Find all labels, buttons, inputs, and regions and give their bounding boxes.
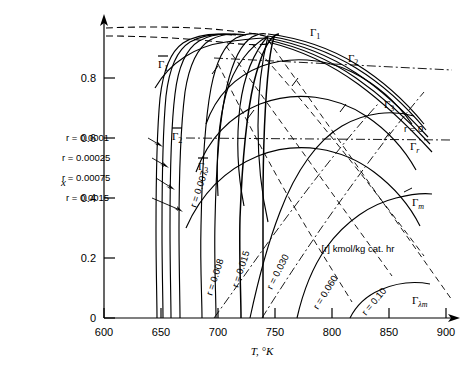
mid-arc-3: [186, 148, 420, 228]
locus-dashed-3: [268, 40, 452, 300]
rate-label-0.0001: r = 0.0001: [66, 132, 109, 143]
conversion-temperature-plot: 0 0.2 0.4 0.6 0.8 600 650 700 750 800 85…: [0, 0, 468, 366]
x-tick-850: 850: [380, 326, 398, 338]
gamma-r-label: Γr: [410, 140, 420, 155]
rate-label-0.030: r = 0.030: [264, 252, 291, 291]
gamma-m-label: Γm: [412, 196, 424, 211]
rate-label-0.015: r = 0.015: [229, 249, 251, 288]
gamma-label-group: Γ1 Γ2 Γ3 Γr Γm Γλm: [310, 26, 428, 309]
x-tick-600: 600: [95, 326, 113, 338]
y-tick-0: 0: [90, 312, 96, 324]
rate-label-leaders: [148, 138, 183, 212]
gamma-3-label: Γ3: [384, 98, 394, 113]
y-tick-0.8: 0.8: [81, 72, 96, 84]
units-note: [r] kmol/kg cat. hr: [322, 243, 395, 254]
rate-label-0.00025: r = 0.00025: [62, 152, 110, 163]
x-tick-750: 750: [266, 326, 284, 338]
rate-label-0.008: r = 0.008: [203, 257, 225, 296]
x-tick-900: 900: [437, 326, 455, 338]
high-rate-curve-family: [250, 113, 432, 318]
x-axis-ticks: [104, 308, 446, 318]
gamma-locus-dashed-lines: [218, 40, 452, 302]
rate-label-0: r = 0: [404, 123, 423, 134]
gamma-lambda-m-label: Γλm: [412, 294, 428, 309]
y-tick-0.2: 0.2: [81, 252, 96, 264]
x-tick-800: 800: [323, 326, 341, 338]
rate-label-0.10: r = 0.10: [359, 285, 388, 317]
x-tick-700: 700: [209, 326, 227, 338]
gamma-bar-2-label: Γ2: [172, 130, 182, 145]
chart-figure: 0 0.2 0.4 0.6 0.8 600 650 700 750 800 85…: [0, 0, 468, 366]
gamma-1-label: Γ1: [310, 26, 320, 41]
rate-label-0.00075: r = 0.00075: [62, 172, 110, 183]
rate-label-0.007: r = 0.007: [187, 169, 209, 208]
rate-label-0.060: r = 0.060: [310, 273, 339, 311]
x-axis-label: T, °K: [251, 345, 274, 357]
rate-label-0.0015: r = 0.0015: [66, 192, 109, 203]
x-tick-650: 650: [152, 326, 170, 338]
gamma-locus-dashdot-lines: [186, 58, 452, 318]
equilibrium-curves: [106, 27, 268, 45]
gamma1-curve: [268, 34, 424, 124]
gamma-bar-1-label: Γ1: [158, 58, 168, 73]
